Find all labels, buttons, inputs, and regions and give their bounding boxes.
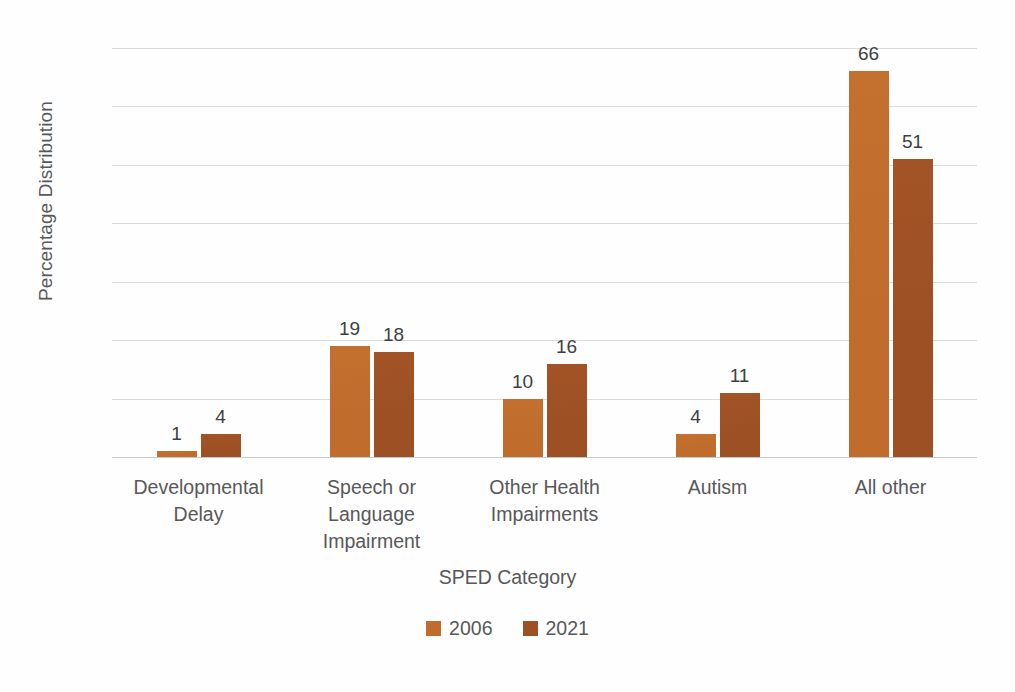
- bar-2006-3: [676, 434, 716, 457]
- plot-area: 14191810164116651: [112, 48, 977, 457]
- bar-2006-1: [330, 346, 370, 457]
- bar-2021-4: [893, 159, 933, 457]
- x-axis-category-label: DevelopmentalDelay: [112, 474, 285, 528]
- x-axis-category-label-line: Autism: [631, 474, 804, 501]
- gridline: [112, 223, 977, 224]
- bar-value-label: 10: [493, 371, 553, 393]
- legend-item-2006[interactable]: 2006: [426, 617, 492, 640]
- bar-chart: Percentage Distribution 010203040506070 …: [0, 0, 1015, 692]
- x-axis-category-label-line: Speech or: [285, 474, 458, 501]
- legend-label: 2021: [546, 617, 589, 640]
- bar-2021-1: [374, 352, 414, 457]
- legend-swatch-icon: [426, 621, 441, 636]
- bar-value-label: 16: [537, 336, 597, 358]
- x-axis-category-label-line: Impairments: [458, 501, 631, 528]
- chart-legend: 20062021: [0, 617, 1015, 640]
- bar-value-label: 51: [883, 131, 943, 153]
- bar-value-label: 4: [191, 406, 251, 428]
- legend-label: 2006: [449, 617, 492, 640]
- x-axis-category-label-line: All other: [804, 474, 977, 501]
- x-axis-category-label-line: Impairment: [285, 528, 458, 555]
- bar-2006-0: [157, 451, 197, 457]
- x-axis-category-label: Other HealthImpairments: [458, 474, 631, 528]
- bar-2021-3: [720, 393, 760, 457]
- legend-swatch-icon: [523, 621, 538, 636]
- gridline: [112, 106, 977, 107]
- bar-value-label: 18: [364, 324, 424, 346]
- bar-2021-0: [201, 434, 241, 457]
- bar-value-label: 11: [710, 365, 770, 387]
- x-axis-category-label-line: Developmental: [112, 474, 285, 501]
- bar-value-label: 4: [666, 406, 726, 428]
- bar-2021-2: [547, 364, 587, 457]
- gridline: [112, 165, 977, 166]
- bar-2006-2: [503, 399, 543, 457]
- x-axis-category-label-line: Other Health: [458, 474, 631, 501]
- y-axis-title: Percentage Distribution: [35, 71, 57, 331]
- bar-value-label: 66: [839, 43, 899, 65]
- x-axis-category-label-line: Delay: [112, 501, 285, 528]
- legend-item-2021[interactable]: 2021: [523, 617, 589, 640]
- gridline: [112, 457, 977, 458]
- x-axis-title: SPED Category: [0, 566, 1015, 589]
- gridline: [112, 282, 977, 283]
- x-axis-category-label: Speech orLanguageImpairment: [285, 474, 458, 555]
- x-axis-category-label: Autism: [631, 474, 804, 501]
- x-axis-category-label-line: Language: [285, 501, 458, 528]
- x-axis-category-label: All other: [804, 474, 977, 501]
- gridline: [112, 399, 977, 400]
- bar-2006-4: [849, 71, 889, 457]
